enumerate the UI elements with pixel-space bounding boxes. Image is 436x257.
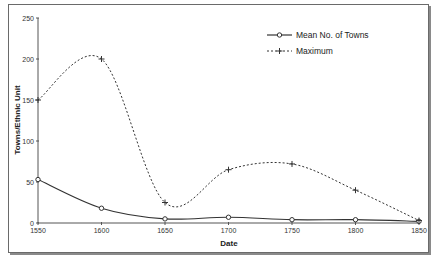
- series-group: [35, 56, 422, 224]
- y-tick-label: 200: [22, 56, 34, 63]
- y-tick-label: 50: [26, 179, 34, 186]
- x-tick-label: 1850: [411, 227, 427, 234]
- circle-marker-icon: [290, 218, 294, 222]
- x-tick-label: 1600: [94, 227, 110, 234]
- legend-label-maximum: Maximum: [296, 46, 333, 56]
- plus-marker-icon: [289, 161, 295, 167]
- legend-item-maximum: Maximum: [267, 46, 333, 56]
- plus-marker-icon: [35, 97, 41, 103]
- circle-marker-icon: [226, 215, 230, 219]
- x-tick-label: 1750: [284, 227, 300, 234]
- circle-marker-icon: [277, 33, 281, 37]
- legend: Mean No. of Towns Maximum: [267, 30, 369, 56]
- x-tick-label: 1800: [348, 227, 364, 234]
- circle-marker-icon: [99, 206, 103, 210]
- y-tick-label: 0: [30, 220, 34, 227]
- x-tick-label: 1650: [157, 227, 173, 234]
- y-tick-label: 150: [22, 97, 34, 104]
- series-maximum: [35, 56, 422, 224]
- circle-marker-icon: [163, 217, 167, 221]
- legend-item-mean: Mean No. of Towns: [267, 30, 369, 40]
- legend-label-mean: Mean No. of Towns: [296, 30, 369, 40]
- line-chart: 0501001502002501550160016501700175018001…: [0, 0, 436, 257]
- y-tick-label: 250: [22, 15, 34, 22]
- series-mean: [36, 177, 421, 223]
- x-tick-label: 1550: [30, 227, 46, 234]
- circle-marker-icon: [353, 218, 357, 222]
- plus-marker-icon: [353, 187, 359, 193]
- plus-marker-icon: [226, 167, 232, 173]
- plus-marker-icon: [277, 48, 283, 54]
- y-axis-title: Towns/Ethnic Unit: [13, 85, 22, 155]
- y-tick-label: 100: [22, 138, 34, 145]
- x-tick-label: 1700: [221, 227, 237, 234]
- circle-marker-icon: [36, 177, 40, 181]
- x-axis-title: Date: [220, 239, 238, 248]
